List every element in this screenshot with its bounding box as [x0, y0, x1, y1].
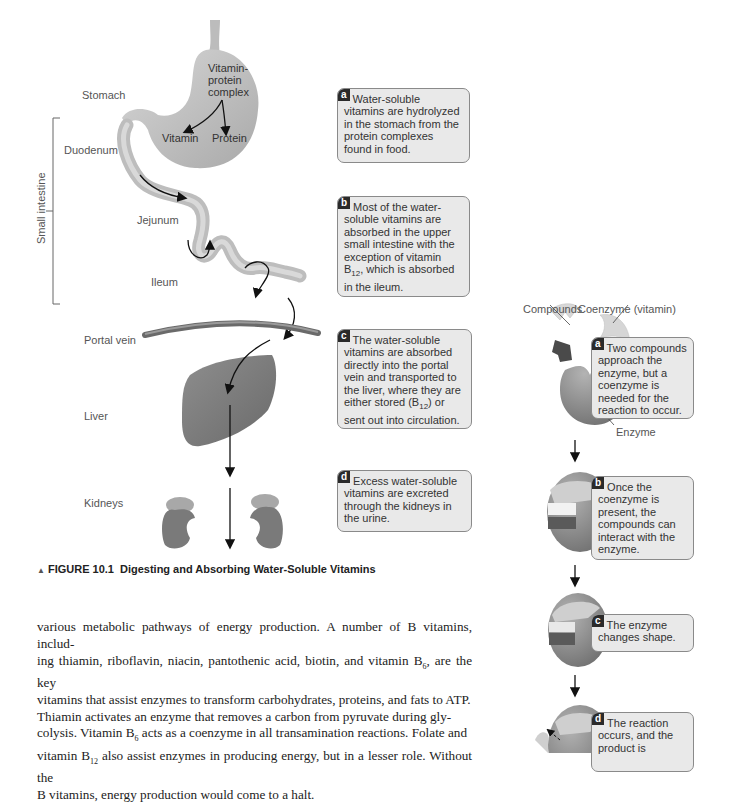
callout-subscript: 12 — [419, 402, 428, 411]
label-kidneys: Kidneys — [84, 497, 123, 509]
label-vitamin: Vitamin — [162, 132, 198, 144]
callout-letter-badge: d — [338, 471, 350, 483]
body-line: ing thiamin, riboflavin, niacin, pantoth… — [37, 653, 472, 692]
body-text-segment: acts as a coenzyme in all transamination… — [139, 725, 467, 740]
body-line: Thiamin activates an enzyme that removes… — [37, 709, 472, 726]
body-text-segment: ing thiamin, riboflavin, niacin, pantoth… — [37, 653, 422, 668]
callout-a-digestion: aWater-soluble vitamins are hydrolyzed i… — [337, 88, 470, 163]
complex-line-3: complex — [208, 86, 249, 98]
complex-line-1: Vitamin- — [208, 62, 249, 74]
small-intestine-bracket — [46, 118, 60, 304]
callout-letter-badge: d — [592, 713, 604, 725]
body-text-segment: vitamin B — [37, 748, 90, 763]
callout-text: Once the coenzyme is present, the compou… — [598, 481, 676, 555]
body-text-segment: also assist enzymes in producing energy,… — [37, 748, 472, 785]
callout-letter-badge: c — [338, 330, 350, 342]
complex-line-2: protein — [208, 74, 249, 86]
callout-a-enzyme: aTwo compounds approach the enzyme, but … — [591, 337, 694, 419]
portal-vein-illustration — [145, 322, 318, 335]
callout-letter-badge: c — [592, 615, 604, 627]
callout-text: The enzyme changes shape. — [598, 619, 676, 643]
label-compounds: Compounds — [523, 303, 582, 315]
label-coenzyme: Coenzyme (vitamin) — [578, 303, 676, 315]
callout-b-enzyme: bOnce the coenzyme is present, the compo… — [591, 476, 694, 560]
label-enzyme: Enzyme — [616, 426, 656, 438]
callout-letter-badge: a — [592, 338, 604, 350]
label-ileum: Ileum — [151, 276, 178, 288]
label-stomach: Stomach — [82, 89, 125, 101]
callout-text: Two compounds approach the enzyme, but a… — [598, 342, 687, 416]
callout-b-digestion: bMost of the water-soluble vitamins are … — [337, 196, 470, 297]
callout-d-enzyme: dThe reaction occurs, and the product is — [591, 712, 694, 772]
body-line: colysis. Vitamin B6 acts as a coenzyme i… — [37, 725, 472, 747]
label-portal-vein: Portal vein — [84, 334, 136, 346]
body-line: vitamin B12 also assist enzymes in produ… — [37, 748, 472, 787]
figure-number: FIGURE 10.1 — [48, 563, 114, 575]
caption-triangle-icon: ▲ — [37, 566, 45, 575]
callout-c-digestion: cThe water-soluble vitamins are absorbed… — [337, 329, 472, 429]
label-protein: Protein — [212, 132, 247, 144]
callout-text: Excess water-soluble vitamins are excret… — [344, 475, 457, 524]
body-paragraph: various metabolic pathways of energy pro… — [37, 619, 472, 804]
callout-text: Water-soluble vitamins are hydrolyzed in… — [344, 93, 460, 155]
callout-text-after: , which is absorbed in the ileum. — [344, 263, 454, 293]
body-line: B vitamins, energy production would come… — [37, 787, 472, 804]
label-vitamin-protein-complex: Vitamin- protein complex — [208, 62, 249, 98]
label-liver: Liver — [84, 410, 108, 422]
label-duodenum: Duodenum — [64, 144, 118, 156]
callout-d-digestion: dExcess water-soluble vitamins are excre… — [337, 470, 472, 532]
figure-caption: ▲FIGURE 10.1Digesting and Absorbing Wate… — [37, 563, 376, 575]
callout-text: The reaction occurs, and the product is — [598, 717, 673, 754]
callout-letter-badge: b — [338, 197, 350, 209]
body-line: various metabolic pathways of energy pro… — [37, 619, 472, 653]
callout-c-enzyme: cThe enzyme changes shape. — [591, 614, 694, 652]
label-jejunum: Jejunum — [137, 214, 179, 226]
body-text-segment: colysis. Vitamin B — [37, 725, 135, 740]
body-subscript: 12 — [90, 757, 98, 766]
kidneys-illustration — [162, 494, 283, 549]
callout-letter-badge: b — [592, 477, 604, 489]
body-line: vitamins that assist enzymes to transfor… — [37, 692, 472, 709]
callout-letter-badge: a — [338, 89, 350, 101]
label-small-intestine: Small intestine — [35, 172, 47, 244]
figure-title: Digesting and Absorbing Water-Soluble Vi… — [120, 563, 376, 575]
callout-subscript: 12 — [351, 269, 360, 278]
